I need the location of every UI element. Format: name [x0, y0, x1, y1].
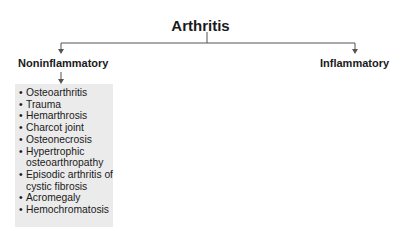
- list-item: •Hemarthrosis: [19, 110, 113, 122]
- bullet-icon: •: [19, 192, 23, 204]
- left-arrow-head: [58, 49, 64, 54]
- right-arrow-head: [352, 49, 358, 54]
- bullet-icon: •: [19, 134, 23, 146]
- noninflammatory-label: Noninflammatory: [18, 57, 108, 69]
- list-item: •Osteonecrosis: [19, 134, 113, 146]
- list-item: •Hemochromatosis: [19, 204, 113, 216]
- list-item: •Trauma: [19, 99, 113, 111]
- inflammatory-label: Inflammatory: [320, 57, 389, 69]
- bullet-icon: •: [19, 204, 23, 216]
- bullet-icon: •: [19, 87, 23, 99]
- list-item: •Hypertrophic osteoarthropathy: [19, 146, 113, 169]
- list-item: •Episodic arthritis of cystic fibrosis: [19, 169, 113, 192]
- bullet-icon: •: [19, 169, 23, 181]
- noninflammatory-causes-box: •Osteoarthritis •Trauma •Hemarthrosis •C…: [15, 84, 113, 227]
- causes-list: •Osteoarthritis •Trauma •Hemarthrosis •C…: [15, 84, 113, 216]
- bullet-icon: •: [19, 110, 23, 122]
- bullet-icon: •: [19, 122, 23, 134]
- bullet-icon: •: [19, 99, 23, 111]
- list-item: •Charcot joint: [19, 122, 113, 134]
- bullet-icon: •: [19, 146, 23, 158]
- list-item: •Osteoarthritis: [19, 87, 113, 99]
- list-item: •Acromegaly: [19, 192, 113, 204]
